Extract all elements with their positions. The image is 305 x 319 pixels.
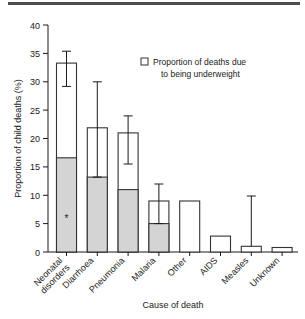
bar-group-diarrhoea [87, 82, 107, 252]
y-tick-label: 20 [30, 134, 40, 144]
x-tick-label-malaria: Malaria [129, 255, 157, 283]
bar-total [211, 236, 231, 252]
y-tick-label: 5 [35, 219, 40, 229]
figure-panel: 40 35 30 25 20 15 10 5 0 Proportion of c… [0, 0, 305, 319]
y-tick-label: 15 [30, 162, 40, 172]
top-rule [8, 2, 300, 5]
y-tick-label: 35 [30, 49, 40, 59]
y-tick-label: 40 [30, 21, 40, 31]
bar-total [241, 246, 261, 252]
bar-underweight [87, 177, 107, 252]
x-tick-label-aids: AIDS [197, 255, 219, 277]
bar-underweight [57, 158, 77, 252]
y-tick-label: 0 [35, 248, 40, 258]
bar-group-unknown [272, 248, 292, 253]
bar-underweight [149, 224, 169, 252]
x-axis-tick-labels: Neonataldisorders Diarrhoea Pneumonia Ma… [31, 255, 281, 296]
bar-total [180, 201, 200, 252]
y-tick-label: 10 [30, 191, 40, 201]
y-axis-tick-labels: 40 35 30 25 20 15 10 5 0 [30, 21, 40, 258]
bar-group-aids [211, 236, 231, 252]
x-tick-label-measles: Measles [220, 255, 251, 286]
y-axis-title: Proportion of child deaths (%) [13, 79, 23, 198]
chart-svg: 40 35 30 25 20 15 10 5 0 Proportion of c… [0, 0, 305, 319]
x-tick-label-unknown: Unknown [248, 255, 282, 289]
y-tick-label: 30 [30, 77, 40, 87]
legend-swatch-icon [141, 58, 148, 65]
asterisk-annotation: * [65, 213, 69, 224]
y-tick-label: 25 [30, 106, 40, 116]
bar-group-measles [241, 196, 261, 252]
bar-underweight [118, 190, 138, 252]
bar-total [272, 248, 292, 253]
legend-label-line1: Proportion of deaths due [153, 57, 246, 67]
bar-group-malaria [149, 184, 169, 252]
bar-group-pneumonia [118, 116, 138, 252]
bar-group-neonatal-disorders: * [57, 51, 77, 252]
legend: Proportion of deaths due to being underw… [141, 57, 246, 79]
y-axis-ticks [43, 25, 48, 252]
legend-label-line2: to being underweight [161, 69, 241, 79]
x-axis-title: Cause of death [142, 300, 203, 310]
x-axis-ticks [67, 252, 283, 256]
x-tick-label-other: Other [165, 255, 188, 278]
bar-group-other [180, 201, 200, 252]
